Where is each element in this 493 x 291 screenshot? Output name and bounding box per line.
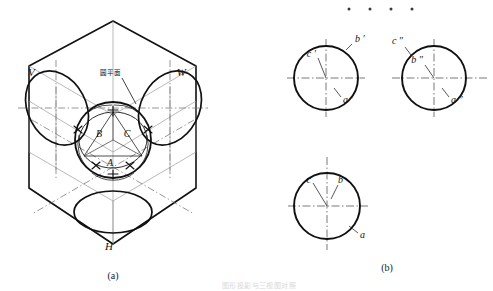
label-point-a: A xyxy=(106,157,114,168)
footer-caption-ghost: 图形投影与三视图对照 xyxy=(222,280,372,289)
label-c: c xyxy=(307,174,312,185)
label-b-prime: b ′ xyxy=(355,33,366,44)
paper-background xyxy=(0,0,493,291)
label-b-double-prime: b ″ xyxy=(411,54,424,65)
figure-root: V W H 圆平面 A B C (a) xyxy=(0,0,493,291)
label-a-prime: a ′ xyxy=(343,94,354,105)
label-a-double-prime: a ″ xyxy=(451,94,464,105)
label-c-prime: c ′ xyxy=(307,48,317,59)
technical-drawing-canvas: V W H 圆平面 A B C (a) xyxy=(0,0,493,291)
caption-panel-a: (a) xyxy=(107,270,118,282)
annotation-circular-plane: 圆平面 xyxy=(100,69,121,77)
label-plane-h: H xyxy=(104,240,114,252)
label-point-b: B xyxy=(96,128,102,139)
label-plane-w: W xyxy=(177,66,187,78)
caption-panel-b: (b) xyxy=(381,262,393,274)
label-b: b xyxy=(338,174,343,185)
label-a: a xyxy=(360,229,365,240)
label-point-c: C xyxy=(124,128,131,139)
label-c-double-prime: c ″ xyxy=(392,35,404,46)
